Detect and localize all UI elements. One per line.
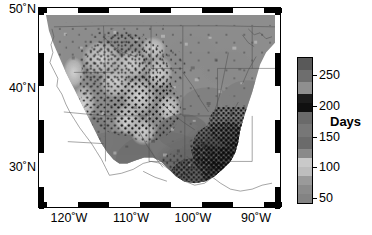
xtick-label-110w: 110˚W	[101, 211, 161, 225]
colorbar-band	[298, 185, 312, 194]
colorbar-gradient	[298, 58, 312, 203]
colorbar-band	[298, 124, 312, 136]
map-frame-ticks-right	[275, 8, 280, 207]
map-canvas	[44, 13, 275, 202]
map-frame	[38, 7, 281, 208]
colorbar-tick	[313, 198, 317, 199]
colorbar-tick	[313, 167, 317, 168]
colorbar-band	[298, 167, 312, 176]
colorbar-tick-label: 100	[319, 160, 340, 174]
colorbar-tick-label: 150	[319, 130, 340, 144]
colorbar-band	[298, 70, 312, 82]
colorbar-band	[298, 176, 312, 185]
colorbar-band	[298, 112, 312, 124]
ytick-label-40n: 40˚N	[0, 81, 36, 95]
map-raster	[44, 13, 275, 202]
map-frame-ticks-left	[39, 8, 44, 207]
xtick-label-120w: 120˚W	[39, 211, 99, 225]
colorbar-tick	[313, 106, 317, 107]
colorbar-band	[298, 194, 312, 203]
colorbar: 25020015010050	[297, 57, 313, 204]
colorbar-tick-label: 250	[319, 68, 340, 82]
colorbar-title: Days	[330, 114, 361, 129]
colorbar-band	[298, 158, 312, 167]
colorbar-body	[297, 57, 313, 204]
xtick-label-90w: 90˚W	[226, 211, 286, 225]
map-frame-ticks-top	[39, 8, 280, 13]
colorbar-tick-label: 200	[319, 99, 340, 113]
map-panel	[38, 7, 281, 208]
colorbar-band	[298, 58, 312, 70]
figure-root: 50˚N 40˚N 30˚N 120˚W 110˚W 100˚W 90˚W 25…	[0, 0, 372, 235]
colorbar-band	[298, 103, 312, 112]
colorbar-band	[298, 94, 312, 103]
ytick-label-50n: 50˚N	[0, 2, 36, 16]
ytick-label-30n: 30˚N	[0, 160, 36, 174]
colorbar-band	[298, 137, 312, 149]
colorbar-band	[298, 149, 312, 158]
colorbar-band	[298, 82, 312, 94]
xtick-label-100w: 100˚W	[163, 211, 223, 225]
colorbar-tick	[313, 75, 317, 76]
colorbar-tick-label: 50	[319, 191, 333, 205]
colorbar-tick	[313, 137, 317, 138]
map-frame-ticks-bottom	[39, 202, 280, 207]
